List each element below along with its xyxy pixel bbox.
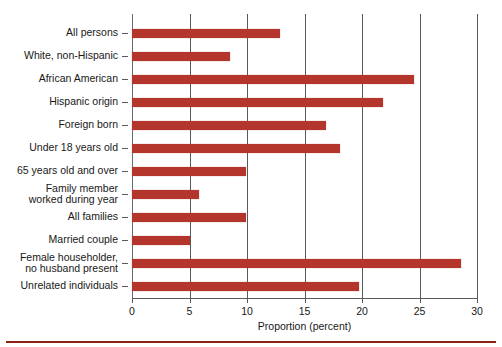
category-label: Hispanic origin (49, 96, 118, 108)
bar-row (132, 137, 477, 160)
bar (132, 75, 414, 84)
bar (132, 144, 340, 153)
bar (132, 167, 246, 176)
bar-row (132, 22, 477, 45)
category-tick (122, 194, 128, 195)
x-tick-label: 10 (241, 305, 253, 317)
x-tick-label: 30 (471, 305, 483, 317)
category-tick (122, 79, 128, 80)
x-tick-10 (247, 298, 248, 303)
category-label: Unrelated individuals (21, 280, 118, 292)
x-tick-15 (305, 298, 306, 303)
x-tick-label: 25 (414, 305, 426, 317)
category-label: Female householder, no husband present (20, 252, 118, 275)
bar-row (132, 45, 477, 68)
category-label: Foreign born (58, 119, 118, 131)
gridline-30 (477, 14, 478, 298)
x-axis-title: Proportion (percent) (132, 320, 477, 332)
x-tick-label: 15 (299, 305, 311, 317)
bar-series (132, 14, 477, 298)
bar (132, 121, 326, 130)
bar (132, 213, 246, 222)
x-tick-30 (477, 298, 478, 303)
bar-row (132, 206, 477, 229)
category-label: African American (39, 73, 118, 85)
category-tick (122, 286, 128, 287)
x-tick-5 (190, 298, 191, 303)
category-tick (122, 56, 128, 57)
category-tick (122, 33, 128, 34)
bar (132, 282, 359, 291)
bar-row (132, 183, 477, 206)
bar (132, 259, 461, 268)
x-tick-label: 5 (187, 305, 193, 317)
bar-row (132, 275, 477, 298)
x-tick-25 (420, 298, 421, 303)
bar-row (132, 252, 477, 275)
bar (132, 29, 280, 38)
bar (132, 98, 383, 107)
category-label: White, non-Hispanic (24, 50, 118, 62)
bar-row (132, 114, 477, 137)
category-label: All families (68, 211, 118, 223)
footer-rule (6, 341, 496, 343)
x-tick-label: 0 (129, 305, 135, 317)
category-label: Married couple (49, 234, 118, 246)
category-tick (122, 148, 128, 149)
category-label: All persons (66, 27, 118, 39)
x-tick-label: 20 (356, 305, 368, 317)
bar-row (132, 68, 477, 91)
category-tick (122, 263, 128, 264)
bar-row (132, 160, 477, 183)
bar-row (132, 229, 477, 252)
category-label: Under 18 years old (29, 142, 118, 154)
category-tick (122, 240, 128, 241)
category-axis-labels: All personsWhite, non-HispanicAfrican Am… (0, 14, 128, 298)
category-tick (122, 217, 128, 218)
category-tick (122, 171, 128, 172)
plot-area (132, 14, 477, 298)
bar (132, 190, 199, 199)
x-tick-0 (132, 298, 133, 303)
category-tick (122, 125, 128, 126)
category-label: 65 years old and over (17, 165, 118, 177)
category-tick (122, 102, 128, 103)
bar (132, 236, 190, 245)
bar-row (132, 91, 477, 114)
poverty-rate-bar-chart: All personsWhite, non-HispanicAfrican Am… (0, 0, 502, 347)
bar (132, 52, 230, 61)
category-label: Family member worked during year (29, 183, 118, 206)
x-tick-20 (362, 298, 363, 303)
